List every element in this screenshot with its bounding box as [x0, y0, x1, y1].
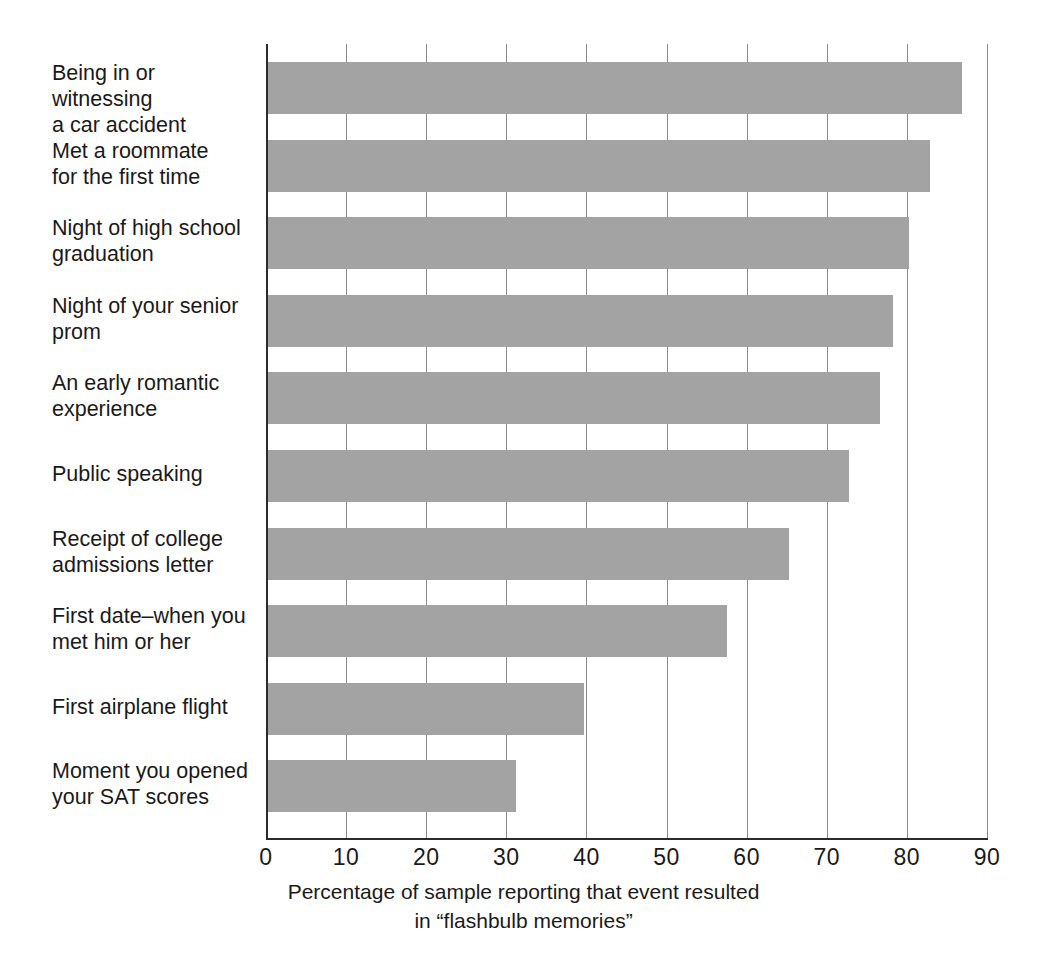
category-label-line: graduation	[52, 241, 258, 267]
category-label: First date–when youmet him or her	[52, 603, 258, 655]
category-label-line: admissions letter	[52, 552, 258, 578]
bar	[268, 450, 849, 502]
category-label-line: Being in or witnessing	[52, 60, 258, 112]
category-label: Met a roommatefor the first time	[52, 138, 258, 190]
category-label: Public speaking	[52, 461, 258, 487]
category-label-line: Night of high school	[52, 215, 258, 241]
gridline-90	[987, 44, 988, 838]
bar	[268, 372, 880, 424]
x-tick-label-80: 80	[894, 844, 921, 871]
category-label-line: met him or her	[52, 629, 258, 655]
category-label: Night of your seniorprom	[52, 293, 258, 345]
category-label-line: An early romantic	[52, 370, 258, 396]
category-label: Receipt of collegeadmissions letter	[52, 526, 258, 578]
category-label-line: Public speaking	[52, 461, 258, 487]
bar	[268, 605, 727, 657]
category-label-line: your SAT scores	[52, 784, 258, 810]
plot-area: 0102030405060708090	[266, 44, 987, 838]
x-tick-label-10: 10	[333, 844, 360, 871]
x-tick-label-60: 60	[733, 844, 760, 871]
category-label: First airplane flight	[52, 694, 258, 720]
category-label-line: Moment you opened	[52, 758, 258, 784]
category-label-line: experience	[52, 396, 258, 422]
category-label-line: a car accident	[52, 112, 258, 138]
category-label-line: Night of your senior	[52, 293, 258, 319]
category-label: Moment you openedyour SAT scores	[52, 758, 258, 810]
bar	[268, 140, 930, 192]
x-tick-label-90: 90	[974, 844, 1001, 871]
bar	[268, 760, 516, 812]
x-axis-line	[266, 838, 988, 840]
bar	[268, 217, 909, 269]
x-tick-label-50: 50	[653, 844, 680, 871]
x-axis-caption: Percentage of sample reporting that even…	[0, 877, 1047, 935]
x-tick-label-20: 20	[413, 844, 440, 871]
category-label-line: for the first time	[52, 164, 258, 190]
bar	[268, 295, 893, 347]
category-label-line: First date–when you	[52, 603, 258, 629]
x-tick-label-40: 40	[573, 844, 600, 871]
category-label-line: Met a roommate	[52, 138, 258, 164]
x-tick-label-70: 70	[813, 844, 840, 871]
category-label-line: prom	[52, 319, 258, 345]
x-axis-caption-line-1: Percentage of sample reporting that even…	[288, 880, 760, 903]
x-tick-label-30: 30	[493, 844, 520, 871]
category-label: Night of high schoolgraduation	[52, 215, 258, 267]
category-label-line: First airplane flight	[52, 694, 258, 720]
bar	[268, 528, 789, 580]
category-label-line: Receipt of college	[52, 526, 258, 552]
category-label: Being in or witnessinga car accident	[52, 60, 258, 138]
flashbulb-memories-bar-chart: Being in or witnessinga car accidentMet …	[0, 0, 1047, 969]
bar	[268, 62, 962, 114]
x-axis-caption-line-2: in “flashbulb memories”	[0, 906, 1047, 935]
x-tick-label-0: 0	[259, 844, 272, 871]
bar	[268, 683, 584, 735]
category-label: An early romanticexperience	[52, 370, 258, 422]
